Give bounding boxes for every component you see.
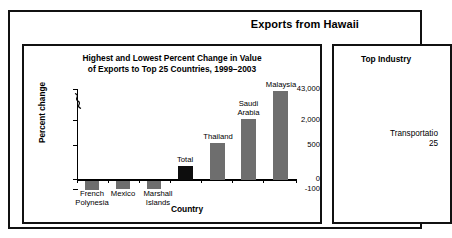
axis-break-icon [73, 93, 84, 109]
bar-label-malaysia: Malaysia [256, 81, 306, 90]
y-tick-mark-500 [73, 145, 78, 146]
bar-thailand [210, 143, 225, 180]
x-tick [139, 180, 140, 183]
bar-label-total: Total [163, 156, 207, 165]
y-tick-mark-2000 [73, 120, 78, 121]
bar-label-line-1: Mexico [111, 189, 135, 198]
bar-label-saudi-arabia: Saudi Arabia [225, 100, 272, 117]
side-panel-value-line-2: 25 [334, 139, 438, 149]
x-tick [263, 180, 264, 183]
plot-area: Percent change 43,000 2,000 500 0 -100 [24, 46, 320, 222]
bar-malaysia [273, 91, 288, 180]
bar-label-thailand: Thailand [192, 133, 244, 142]
bar-total [178, 166, 193, 180]
figure-frame: Exports from Hawaii Highest and Lowest P… [8, 10, 422, 229]
bar-label-line-1: Thailand [203, 132, 233, 141]
bar-label-line-2: Arabia [237, 108, 259, 117]
side-panel-body: Transportatio 25 [334, 129, 438, 149]
side-panel-value-line-1: Transportatio [334, 129, 438, 139]
figure-title: Exports from Hawaii [10, 18, 359, 30]
bar-label-line-1: Malaysia [266, 80, 296, 89]
x-tick [201, 180, 202, 183]
side-panel-title: Top Industry [334, 54, 438, 64]
chart-panel: Highest and Lowest Percent Change in Val… [22, 44, 322, 224]
bar-label-line-1: Total [177, 155, 193, 164]
x-tick [170, 180, 171, 183]
y-tick-mark-43000 [73, 89, 78, 90]
x-tick [108, 180, 109, 183]
bar-mexico [116, 181, 130, 190]
bar-saudi-arabia [241, 119, 256, 180]
side-panel: Top Industry Transportatio 25 [332, 44, 452, 224]
x-tick [77, 180, 78, 183]
x-axis-title: Country [77, 204, 297, 214]
x-tick [232, 180, 233, 183]
bar-marshall-islands [147, 181, 161, 189]
y-tick-label-neg100: -100 [278, 185, 320, 193]
x-tick [296, 180, 297, 183]
y-axis-title: Percent change [38, 74, 47, 152]
